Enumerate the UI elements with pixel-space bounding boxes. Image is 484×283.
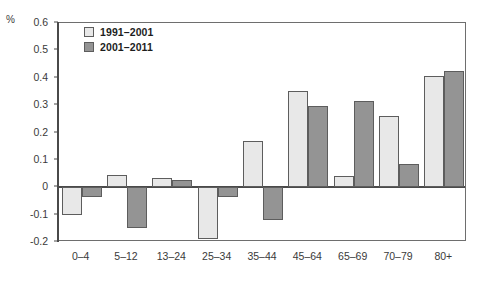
bar-group [331, 23, 376, 240]
bar-group [422, 23, 467, 240]
legend-item-series-0: 1991–2001 [84, 26, 153, 38]
y-axis-tick-label: 0.6 [33, 16, 48, 28]
x-axis-tick-label: 45–64 [293, 250, 322, 262]
y-axis-tick-label: -0.1 [30, 208, 48, 220]
x-axis-tick-label: 25–34 [202, 250, 231, 262]
bar-series-0 [379, 116, 399, 187]
y-axis-spine [57, 22, 59, 242]
bar-series-0 [152, 178, 172, 188]
x-axis-tick-label: 70–79 [383, 250, 412, 262]
bar-group [150, 23, 195, 240]
y-axis-tick-label: 0.5 [33, 43, 48, 55]
legend-swatch-icon-series-1 [84, 42, 94, 52]
x-axis-tick-label: 5–12 [114, 250, 137, 262]
bar-series-0 [198, 187, 218, 239]
bars-layer [59, 23, 465, 240]
bar-series-0 [288, 91, 308, 187]
bar-group [286, 23, 331, 240]
bar-series-0 [107, 175, 127, 187]
bar-series-1 [263, 187, 283, 220]
legend-label-series-1: 2001–2011 [100, 41, 153, 53]
bar-series-1 [218, 187, 238, 197]
bar-series-0 [334, 176, 354, 187]
bar-group [59, 23, 104, 240]
legend: 1991–2001 2001–2011 [84, 26, 153, 53]
bar-chart: % 0.60.50.40.30.20.10-0.1-0.2 0–45–1213–… [0, 0, 484, 283]
bar-group [195, 23, 240, 240]
y-axis-tick-label: 0.1 [33, 153, 48, 165]
plot-area [58, 22, 466, 241]
bar-series-0 [243, 141, 263, 188]
y-axis-tick-label: 0.4 [33, 71, 48, 83]
bar-series-1 [399, 164, 419, 187]
bar-series-0 [62, 187, 82, 214]
bar-series-1 [127, 187, 147, 228]
bar-series-1 [82, 187, 102, 197]
x-axis-labels: 0–45–1213–2425–3435–4445–6465–6970–7980+ [58, 250, 466, 270]
x-axis-tick-label: 65–69 [338, 250, 367, 262]
y-axis-tick-label: 0.3 [33, 98, 48, 110]
y-axis-tick-label: -0.2 [30, 235, 48, 247]
bar-series-1 [354, 101, 374, 187]
bar-series-1 [172, 180, 192, 187]
x-axis-tick-label: 35–44 [247, 250, 276, 262]
bar-series-1 [444, 71, 464, 187]
x-axis-tick-label: 80+ [434, 250, 452, 262]
y-axis: 0.60.50.40.30.20.10-0.1-0.2 [28, 22, 54, 241]
bar-group [104, 23, 149, 240]
y-axis-unit-label: % [6, 14, 15, 25]
bar-group [240, 23, 285, 240]
legend-label-series-0: 1991–2001 [100, 26, 153, 38]
legend-swatch-icon-series-0 [84, 27, 94, 37]
y-axis-tick-label: 0 [42, 180, 48, 192]
bar-series-1 [308, 106, 328, 187]
bar-series-0 [424, 76, 444, 187]
bar-group [376, 23, 421, 240]
legend-item-series-1: 2001–2011 [84, 41, 153, 53]
x-axis-tick-label: 13–24 [157, 250, 186, 262]
y-axis-tick-label: 0.2 [33, 126, 48, 138]
x-axis-tick-label: 0–4 [72, 250, 90, 262]
